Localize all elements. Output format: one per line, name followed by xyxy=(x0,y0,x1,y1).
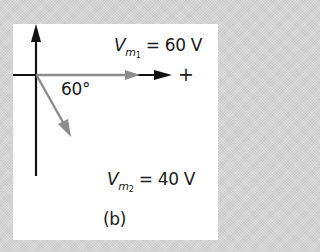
angle-label: 60° xyxy=(61,79,90,99)
horizontal-axis-arrowhead-icon xyxy=(154,70,172,80)
phasor-vm2-arrowhead-icon xyxy=(58,119,71,137)
phasor-vm1-arrowhead-icon xyxy=(125,70,140,80)
vm1-label: Vm1 = 60 V xyxy=(114,35,202,60)
phasor-vm2-line xyxy=(37,76,64,124)
vertical-axis-arrowhead-icon xyxy=(31,24,41,42)
panel-label: (b) xyxy=(103,209,126,229)
axis-plus-label: + xyxy=(178,63,194,85)
vm2-label: Vm2 = 40 V xyxy=(107,169,195,194)
vm1-sub-var: m xyxy=(125,46,135,59)
vm2-sub-var: m xyxy=(118,180,128,193)
